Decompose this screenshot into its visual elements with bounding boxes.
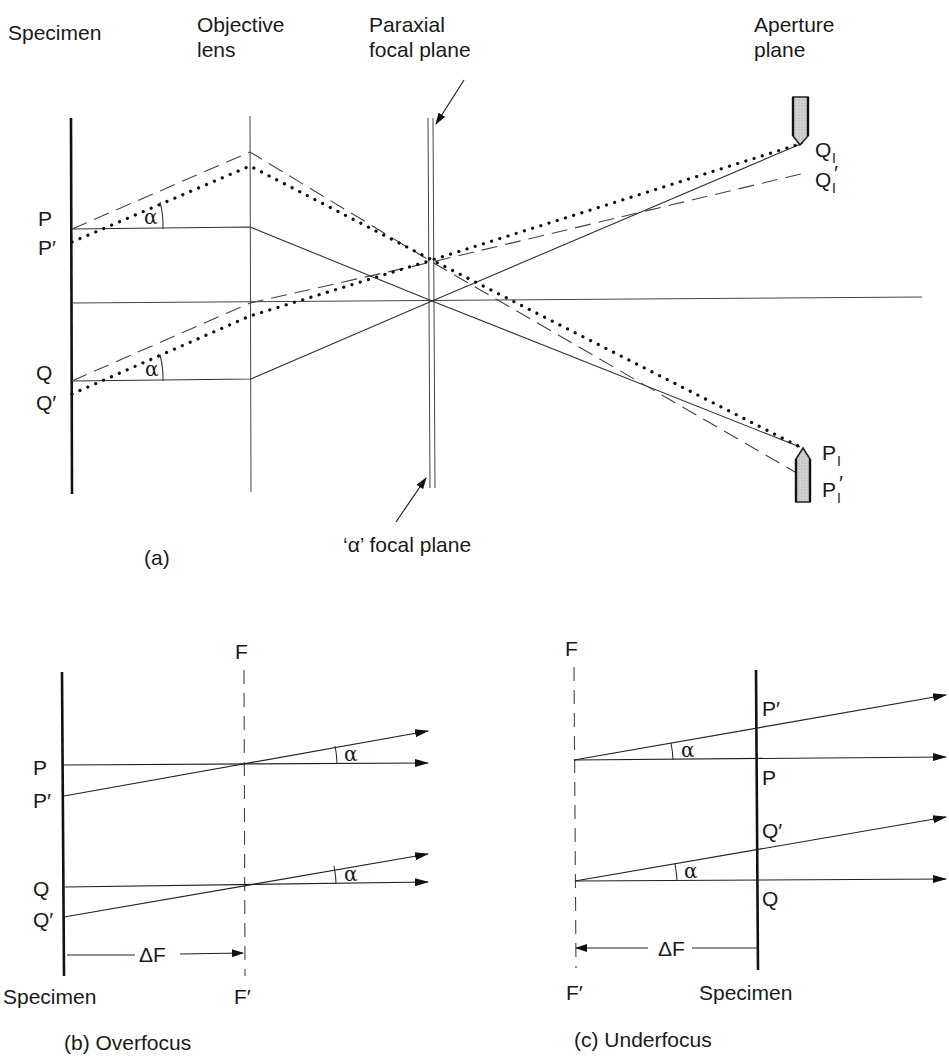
panel-b-ray-q [64,882,428,887]
panel-c-ray-q [575,879,946,881]
paraxial-pointer-arrow-icon [436,80,464,124]
panel-b-ray-q-prime [64,854,428,917]
panel-c-ray-p-prime [574,695,946,760]
point-p-label: P [38,207,52,230]
point-qi-prime-label: Q I ′ [815,161,838,196]
panel-c-ray-p [574,757,946,760]
ray-p-paraxial [72,227,800,447]
panel-b-f-prime-label: F′ [234,985,251,1008]
point-p-prime-label: P′ [38,236,56,259]
point-q-prime-label: Q′ [36,391,56,414]
ray-p-prime-dotted [72,166,800,447]
panel-a: Specimen Objective lens Paraxial focal p… [8,13,922,569]
panel-a-caption: (a) [144,546,170,569]
ray-q-prime-dotted [72,143,803,394]
panel-c-alpha-p: α [681,738,695,762]
paraxial-header-line1: Paraxial [369,13,445,36]
panel-c-delta-f-label: ΔF [658,937,685,960]
panel-c-ray-q-prime [575,817,946,881]
alpha-plane-pointer-arrow-icon [396,478,426,522]
alpha-focal-plane-label: ‘α’ focal plane [343,533,471,556]
panel-c-alpha-q: α [684,859,698,883]
alpha-label-q: α [145,357,159,381]
svg-text:′: ′ [834,161,838,184]
panel-c-angle-arc-p [671,743,673,760]
specimen-plane [71,118,72,494]
svg-text:Q: Q [815,168,831,191]
svg-text:Q: Q [815,138,831,161]
point-pi-prime-label: P I ′ [822,471,843,506]
aperture-lower-blade [796,448,810,502]
objective-header-line1: Objective [197,13,285,36]
panel-b-overfocus: F α α P P′ Q Q′ ΔF Specimen F′ (b) Overf… [3,640,428,1054]
panel-b-angle-arc-p [335,746,337,763]
paraxial-header-line2: focal plane [369,38,471,61]
point-pi-label: P I [822,441,841,469]
objective-lens-plane [250,116,251,492]
panel-b-p-label: P [33,756,47,779]
panel-b-p-prime-label: P′ [33,789,51,812]
objective-header-line2: lens [197,38,236,61]
panel-b-f-label: F [235,640,248,663]
angle-arc-p [160,202,163,229]
alpha-label-p: α [144,205,158,229]
panel-c-p-prime-label: P′ [762,697,780,720]
aperture-upper-blade [793,97,808,145]
svg-text:P: P [822,478,836,501]
panel-b-q-label: Q [33,877,49,900]
ray-q-dashed [72,173,805,381]
aperture-header-line2: plane [754,38,805,61]
panel-c-q-prime-label: Q′ [762,819,782,842]
panel-c-specimen-plane [756,670,758,970]
panel-b-specimen-plane [62,672,64,976]
panel-c-p-label: P [762,766,776,789]
panel-b-q-prime-label: Q′ [33,908,53,931]
panel-c-underfocus: F α α P′ P Q′ Q ΔF F′ Specimen (c) Under… [565,637,946,1051]
panel-b-focal-plane [244,670,245,976]
svg-text:P: P [822,441,836,464]
panel-b-alpha-q: α [344,862,358,886]
point-q-label: Q [36,361,52,384]
panel-c-q-label: Q [762,887,778,910]
point-qi-label: Q I [815,138,836,166]
angle-arc-q [160,355,163,381]
panel-c-f-prime-label: F′ [566,981,583,1004]
aperture-header-line1: Aperture [754,13,835,36]
svg-text:I: I [837,453,841,469]
panel-c-caption: (c) Underfocus [574,1028,712,1051]
panel-c-angle-arc-q [675,864,677,881]
panel-b-specimen-label: Specimen [3,985,96,1008]
panel-b-alpha-p: α [344,742,358,766]
panel-b-caption: (b) Overfocus [64,1031,191,1054]
panel-b-delta-f-label: ΔF [139,943,166,966]
panel-c-f-label: F [565,637,578,660]
ray-diagram: Specimen Objective lens Paraxial focal p… [0,0,949,1062]
panel-b-angle-arc-q [334,866,336,883]
alpha-focal-plane [433,118,435,488]
panel-b-delta-f-arrow-icon [180,953,243,954]
panel-c-focal-plane [574,667,576,968]
svg-text:′: ′ [839,471,843,494]
panel-c-specimen-label: Specimen [699,981,792,1004]
specimen-header: Specimen [8,21,101,44]
